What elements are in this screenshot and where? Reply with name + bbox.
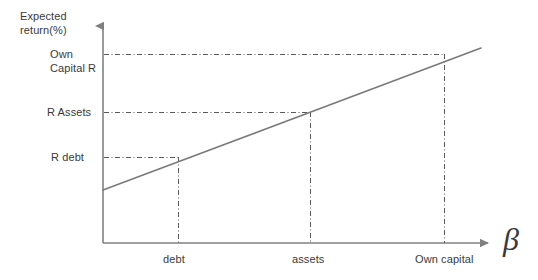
x-tick-label-own-capital: Own capital	[415, 252, 474, 266]
chart-plot-svg	[0, 0, 538, 280]
y-tick-label-debt: R debt	[51, 150, 84, 164]
y-axis-title: Expected return(%)	[20, 9, 67, 37]
security-market-line	[103, 48, 481, 190]
chart-canvas: Expected return(%) Own Capital R R Asset…	[0, 0, 538, 280]
x-tick-label-debt: debt	[163, 252, 185, 266]
x-axis-beta-symbol: β	[503, 222, 519, 256]
y-tick-label-own-capital: Own Capital R	[50, 47, 96, 75]
y-tick-label-assets: R Assets	[47, 105, 91, 119]
x-tick-label-assets: assets	[292, 252, 324, 266]
